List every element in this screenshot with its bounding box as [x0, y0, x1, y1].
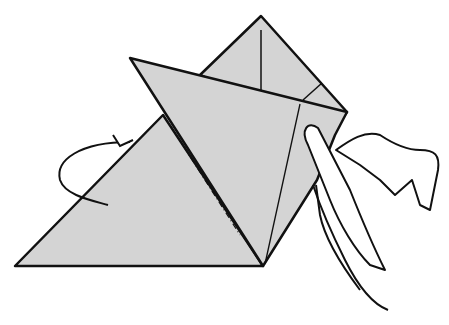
arrow-head-icon: [113, 135, 133, 146]
origami-diagram: [0, 0, 449, 325]
hand: [305, 125, 439, 310]
